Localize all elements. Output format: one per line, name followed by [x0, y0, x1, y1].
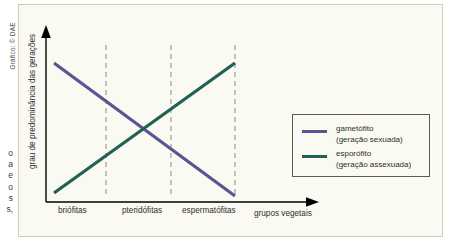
x-tick-label-pteridofitas: pteridófitas — [122, 206, 162, 215]
y-axis — [41, 25, 51, 202]
y-axis-label: grau de predominância das gerações — [28, 27, 37, 177]
plot-area: grau de predominância das gerações brióf… — [19, 5, 444, 238]
legend-label-esporofito: esporófito (geração assexuada) — [336, 149, 411, 170]
legend-swatch-esporofito — [302, 155, 327, 158]
figure-frame: grau de predominância das gerações brióf… — [18, 4, 443, 237]
x-axis-label: grupos vegetais — [254, 209, 312, 218]
margin-text-fragment: o a e o s s, — [0, 148, 13, 215]
gridlines — [106, 45, 235, 198]
legend-label-esporofito-name: esporófito — [336, 149, 411, 160]
y-axis-arrowhead — [41, 25, 51, 38]
legend-label-esporofito-sublabel: (geração assexuada) — [336, 160, 411, 171]
x-tick-label-espermatofitas: espermatófitas — [182, 206, 236, 215]
legend-label-gametofito-name: gametófito — [336, 124, 403, 135]
x-tick-label-briofitas: briófitas — [58, 206, 87, 215]
legend-label-gametofito: gametófito (geração sexuada) — [336, 124, 403, 145]
x-axis-arrowhead — [306, 197, 319, 207]
chart-legend: gametófito (geração sexuada) esporófito … — [292, 114, 430, 177]
legend-swatch-gametofito — [302, 130, 327, 133]
legend-label-gametofito-sublabel: (geração sexuada) — [336, 135, 403, 146]
figure-credit: Gráfico: © DAE — [9, 0, 16, 70]
